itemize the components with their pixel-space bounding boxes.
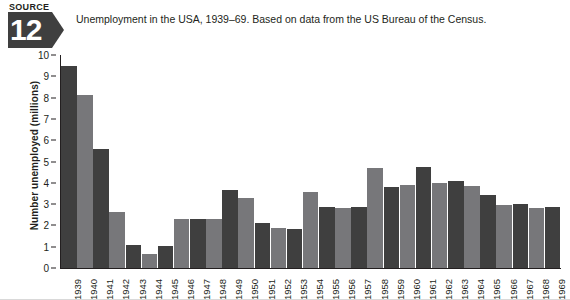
x-axis-line [60,268,561,269]
y-tick-label: 7 [29,113,49,124]
bar-1949 [222,190,238,268]
x-axis-labels: 1939194019411942194319441945194619471948… [60,270,560,300]
y-tick-mark [51,161,56,162]
bar-1963 [448,181,464,268]
bar-1941 [93,149,109,268]
plot-area [60,55,561,268]
x-tick-label: 1960 [411,279,422,300]
x-tick-label: 1939 [72,279,83,300]
x-tick-label: 1949 [233,279,244,300]
bar-1958 [367,168,383,268]
source-badge: SOURCE 12 [8,2,70,50]
y-tick-mark [51,118,56,119]
y-axis-ticks: 012345678910 [30,50,56,268]
y-tick-mark [51,140,56,141]
source-label: SOURCE [8,2,70,12]
bar-1954 [303,192,319,268]
x-tick-label: 1944 [153,279,164,300]
y-tick-label: 3 [29,199,49,210]
x-tick-label: 1952 [282,279,293,300]
y-tick-mark [51,182,56,183]
bar-1940 [77,95,93,268]
bar-1956 [335,208,351,268]
source-number: 12 [10,13,56,47]
y-tick-mark [51,55,56,56]
bar-1968 [529,208,545,268]
bar-1953 [287,229,303,268]
x-tick-label: 1956 [346,279,357,300]
figure-caption: Unemployment in the USA, 1939–69. Based … [76,13,546,26]
x-tick-label: 1963 [459,279,470,300]
bar-1961 [416,167,432,268]
bar-1944 [142,254,158,268]
x-tick-label: 1950 [249,279,260,300]
bar-1957 [351,207,367,268]
y-tick-mark [51,97,56,98]
bar-1951 [255,223,271,268]
bar-1969 [545,207,561,268]
y-tick-mark [51,204,56,205]
bar-chart: Number unemployed (millions) 01234567891… [0,50,570,300]
bar-1965 [480,195,496,268]
x-tick-label: 1954 [314,279,325,300]
y-tick-mark [51,225,56,226]
bars-container [61,55,561,268]
source-flag-shape: 12 [8,12,64,48]
bar-1960 [400,185,416,268]
x-tick-label: 1945 [169,279,180,300]
y-tick-label: 2 [29,220,49,231]
y-tick-label: 1 [29,241,49,252]
bar-1955 [319,207,335,268]
y-tick-label: 9 [29,71,49,82]
bar-1943 [126,245,142,268]
y-tick-label: 5 [29,156,49,167]
x-tick-label: 1953 [298,279,309,300]
x-tick-label: 1966 [508,279,519,300]
x-tick-label: 1959 [395,279,406,300]
x-tick-label: 1964 [475,279,486,300]
x-tick-label: 1947 [201,279,212,300]
x-tick-label: 1958 [379,279,390,300]
x-tick-label: 1955 [330,279,341,300]
bar-1942 [109,212,125,268]
x-tick-label: 1940 [88,279,99,300]
x-tick-label: 1951 [266,279,277,300]
bar-1952 [271,228,287,268]
y-tick-label: 10 [29,50,49,61]
y-tick-mark [51,268,56,269]
x-tick-label: 1942 [120,279,131,300]
bar-1959 [384,187,400,268]
y-tick-label: 0 [29,263,49,274]
bar-1964 [464,186,480,268]
bar-1945 [158,246,174,268]
x-tick-label: 1961 [427,279,438,300]
x-tick-label: 1957 [362,279,373,300]
x-tick-label: 1943 [137,279,148,300]
y-tick-label: 8 [29,92,49,103]
x-tick-label: 1948 [217,279,228,300]
x-tick-label: 1965 [491,279,502,300]
bar-1946 [174,219,190,268]
x-tick-label: 1969 [556,279,567,300]
y-tick-label: 4 [29,177,49,188]
bar-1939 [61,66,77,268]
x-tick-label: 1946 [185,279,196,300]
x-tick-label: 1967 [524,279,535,300]
bar-1967 [513,204,529,268]
bar-1947 [190,219,206,268]
x-tick-label: 1941 [104,279,115,300]
y-tick-label: 6 [29,135,49,146]
x-tick-label: 1962 [443,279,454,300]
y-tick-mark [51,246,56,247]
bar-1966 [496,205,512,268]
y-tick-mark [51,76,56,77]
x-tick-label: 1968 [540,279,551,300]
bar-1962 [432,183,448,268]
bar-1950 [238,198,254,268]
bar-1948 [206,219,222,268]
